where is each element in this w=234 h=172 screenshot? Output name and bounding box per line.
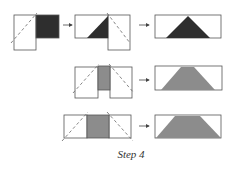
white-piece <box>14 15 36 50</box>
fold-diagram <box>0 0 234 172</box>
gray-strip <box>98 66 110 90</box>
lower-piece <box>108 15 130 50</box>
row-2-step-a <box>73 64 134 98</box>
row-2-result <box>155 66 222 90</box>
dark-square <box>36 15 59 38</box>
gray-square <box>87 115 109 138</box>
left-piece <box>75 67 98 98</box>
row-1-step-b <box>75 13 130 50</box>
row-3-step-a <box>62 112 133 141</box>
row-1-result <box>155 15 221 38</box>
row-3-result <box>155 115 221 138</box>
row-1-step-a <box>11 13 59 50</box>
right-piece <box>110 67 132 98</box>
step-caption: Step 4 <box>0 148 234 160</box>
